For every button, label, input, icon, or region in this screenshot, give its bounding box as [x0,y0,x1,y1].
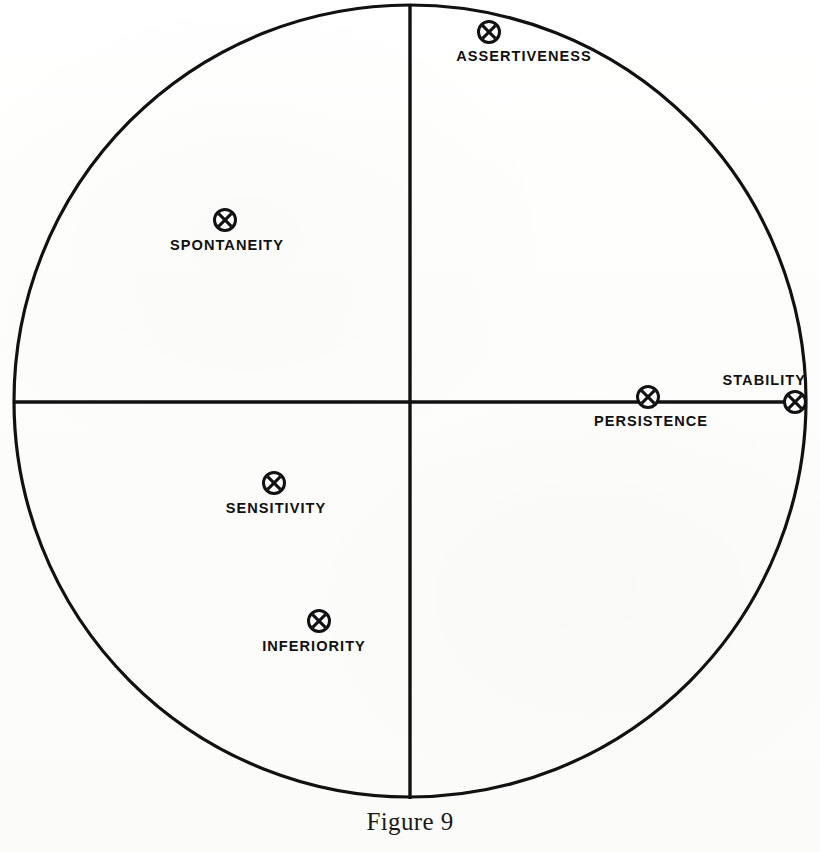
data-point-label-stability: STABILITY [722,371,806,389]
data-point-label-sensitivity: SENSITIVITY [226,499,326,517]
figure-caption: Figure 9 [0,808,820,836]
data-point-label-persistence: PERSISTENCE [594,412,708,430]
data-point-marker-persistence[interactable] [638,387,659,408]
data-point-label-inferiority: INFERIORITY [262,637,366,655]
figure-page: ASSERTIVENESS SPONTANEITY STABILITY PERS… [0,0,820,852]
data-point-marker-stability[interactable] [785,392,806,413]
data-point-marker-inferiority[interactable] [309,611,330,632]
data-point-label-spontaneity: SPONTANEITY [170,236,284,254]
data-point-label-assertiveness: ASSERTIVENESS [456,47,592,65]
data-point-marker-sensitivity[interactable] [264,473,285,494]
data-point-marker-assertiveness[interactable] [479,22,500,43]
data-point-marker-spontaneity[interactable] [215,210,236,231]
